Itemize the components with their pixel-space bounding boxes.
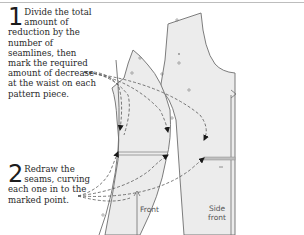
- step-1-instruction: 1 Divide the total amount of reduction b…: [8, 7, 100, 99]
- step-2-instruction: 2 Redraw the seams, curving each one in …: [8, 164, 100, 205]
- side-front-label: Side front: [204, 204, 230, 222]
- side-front-label-line2: front: [204, 213, 230, 222]
- side-front-label-line1: Side: [204, 204, 230, 213]
- side-front-pattern-piece: [160, 13, 236, 235]
- step-1-number: 1: [8, 7, 23, 27]
- front-label: Front: [140, 205, 159, 214]
- step-2-number: 2: [8, 164, 23, 184]
